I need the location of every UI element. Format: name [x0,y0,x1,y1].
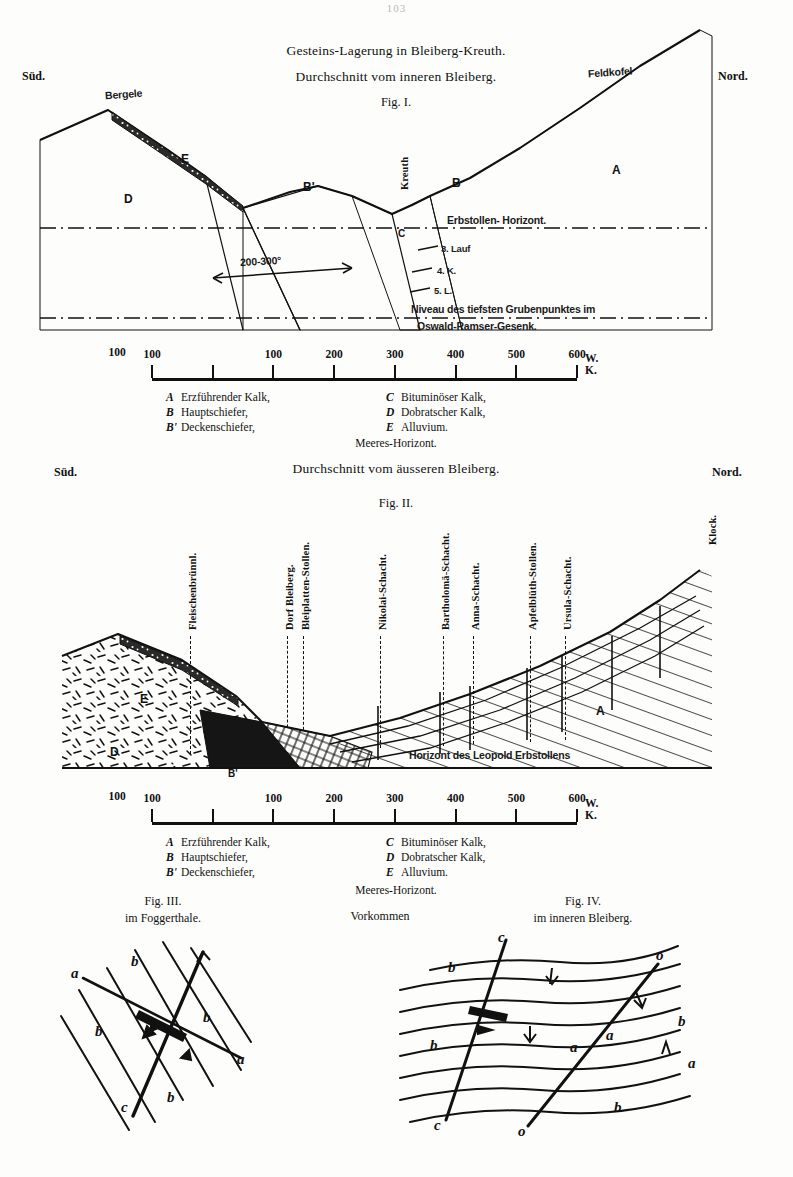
fig2-legend-footer: Meeres-Horizont. [355,884,436,896]
scale-tick-label: 600 [568,792,585,804]
legend-row: DDobratscher Kalk, [386,405,486,420]
fig1-horizon-4-k: 4. K. [437,265,456,276]
fig2-section-drawing [0,460,793,790]
fig1-legend-left: AErzführender Kalk, BHauptschiefer, B'De… [166,390,270,436]
fig2-strata-B: B [168,755,177,769]
legend-row: B'Deckenschiefer, [166,420,270,435]
legend-row: B'Deckenschiefer, [166,865,270,880]
fig1-strata-C: C [398,228,405,239]
legend-text: Erzführender Kalk, [181,836,270,848]
scale-tick-label: 100 [143,348,160,360]
legend-text: Bituminöser Kalk, [401,391,486,403]
scale-tick [151,365,153,378]
legend-key: B' [166,865,181,880]
scale-tick-label: 600 [568,348,585,360]
fig2-strata-E: E [140,692,148,706]
fig1-deep-point-line1: Niveau des tiefsten Grubenpunktes im [411,303,595,315]
fig2-strata-D: D [110,745,119,759]
svg-text:o: o [656,947,664,963]
fig2-legend-right: CBituminöser Kalk, DDobratscher Kalk, EA… [386,835,486,881]
fig2-scale-unit: W. K. [585,797,598,821]
fig2-legend-left: AErzführender Kalk, BHauptschiefer, B'De… [166,835,270,881]
fig1-horizon-5-l: 5. L. [434,285,452,296]
fig1-scale-line [152,378,577,381]
scale-tick [576,365,578,378]
legend-row: BHauptschiefer, [166,405,270,420]
fig4-drawing: b b b b a a c c o o a [400,930,700,1150]
plate-page: 103 Gesteins-Lagerung in Bleiberg-Kreuth… [0,0,793,1177]
legend-key: B [166,405,181,420]
fig3-drawing: a b b b b a c [55,930,315,1150]
scale-tick-label: 300 [386,792,403,804]
legend-key: A [166,835,181,850]
legend-key: E [386,420,401,435]
scale-tick [272,809,274,822]
svg-text:a: a [237,1051,245,1067]
fig1-thickness-label: 200-300° [240,254,282,268]
svg-text:c: c [434,1117,441,1133]
legend-text: Dobratscher Kalk, [401,406,485,418]
fig4-label: Fig. IV. [534,893,633,910]
svg-text:c: c [498,929,505,945]
legend-text: Bituminöser Kalk, [401,836,486,848]
scale-origin-label: 100 [108,790,125,802]
svg-text:b: b [167,1089,175,1105]
legend-text: Alluvium. [401,866,448,878]
svg-text:a: a [606,1027,614,1043]
legend-text: Dobratscher Kalk, [401,851,485,863]
scale-tick-label: 500 [508,348,525,360]
scale-tick [272,365,274,378]
legend-key: B [166,850,181,865]
fig2-strata-A: A [596,704,605,718]
legend-key: B' [166,420,181,435]
legend-text: Hauptschiefer, [181,851,248,863]
svg-text:b: b [430,1037,438,1053]
legend-text: Alluvium. [401,421,448,433]
fig3-subtitle: im Foggerthale. [125,910,201,927]
legend-row: EAlluvium. [386,420,486,435]
scale-tick-label: 100 [265,792,282,804]
scale-tick [394,809,396,822]
legend-text: Erzführender Kalk, [181,391,270,403]
legend-row: BHauptschiefer, [166,850,270,865]
svg-text:b: b [614,1099,622,1115]
svg-text:b: b [203,1009,211,1025]
fig1-section-drawing [0,0,793,360]
legend-key: D [386,850,401,865]
legend-row: AErzführender Kalk, [166,390,270,405]
scale-tick-label: 100 [265,348,282,360]
legend-row: EAlluvium. [386,865,486,880]
legend-key: A [166,390,181,405]
fig1-horizon-erbstollen: Erbstollen- Horizont. [447,214,546,226]
fig4-subtitle: im inneren Bleiberg. [534,910,633,927]
svg-text:b: b [448,959,456,975]
scale-tick-label: 200 [326,348,343,360]
svg-text:a: a [570,1039,578,1055]
legend-key: C [386,390,401,405]
scale-tick [455,809,457,822]
svg-text:b: b [131,953,139,969]
legend-row: CBituminöser Kalk, [386,390,486,405]
fig3-caption: Fig. III. im Foggerthale. [125,893,201,928]
fig4-caption: Fig. IV. im inneren Bleiberg. [534,893,633,928]
scale-tick [212,365,214,378]
legend-row: CBituminöser Kalk, [386,835,486,850]
scale-tick [515,365,517,378]
svg-text:b: b [678,1013,686,1029]
legend-text: Deckenschiefer, [181,421,255,433]
scale-tick [394,365,396,378]
svg-text:o: o [518,1123,526,1139]
fig1-strata-A: A [612,163,621,177]
legend-key: D [386,405,401,420]
scale-tick [333,809,335,822]
scale-tick-label: 100 [143,792,160,804]
scale-tick [212,809,214,822]
fig1-deep-point-line2: Oswald-Ramser-Gesenk. [417,320,537,332]
scale-tick [515,809,517,822]
fig1-legend-right: CBituminöser Kalk, DDobratscher Kalk, EA… [386,390,486,436]
fig1-legend-footer: Meeres-Horizont. [355,437,436,449]
fig3-label: Fig. III. [125,893,201,910]
fig1-strata-D: D [124,192,133,206]
fig1-strata-E: E [181,152,189,166]
scale-tick-label: 400 [447,348,464,360]
